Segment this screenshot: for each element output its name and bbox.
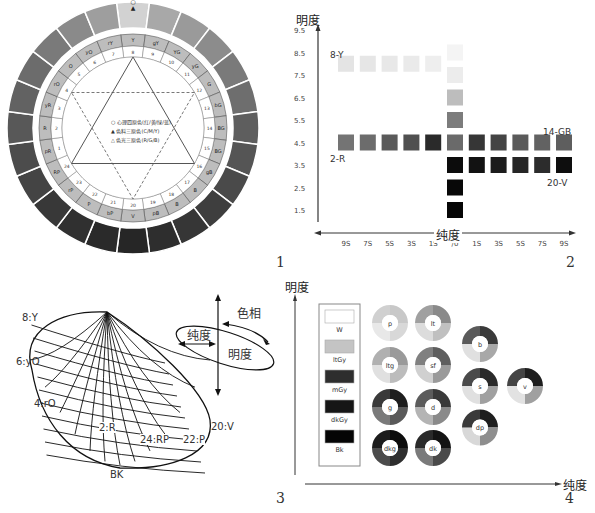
y-tick-label: 3.5 <box>294 162 305 170</box>
y-tick-label: 2.5 <box>294 185 305 193</box>
hue-number-label: 19 <box>150 200 156 205</box>
tone-donut-dp: dp <box>462 410 498 446</box>
neutral-legend-label: mGy <box>332 386 347 394</box>
hue-label-2-R: 2:R <box>99 422 116 433</box>
tone-donut-dk: dk <box>415 430 451 466</box>
hue-code-label: YG <box>173 49 181 55</box>
outer-hue-segment <box>7 112 34 145</box>
outer-hue-segment <box>232 112 259 145</box>
neutral-legend-label: W <box>336 326 343 334</box>
hue-code-label: RP <box>54 169 61 175</box>
hue-section-chart: 明度 9.58.57.56.55.54.53.52.51.59S7S5S3S1S… <box>290 0 595 270</box>
hue-code-label: P <box>87 201 90 207</box>
hue-swatch <box>403 56 419 72</box>
neutral-swatch <box>447 67 463 83</box>
hue-label-20-V: 20:V <box>211 421 234 432</box>
hue-code-label: bG <box>214 102 221 108</box>
y-tick-label: 1.5 <box>294 207 305 215</box>
hue-swatch <box>360 56 376 72</box>
tone-donut-ltg: ltg <box>372 347 408 383</box>
tone-label: b <box>478 341 482 349</box>
tone-label: dk <box>429 445 437 453</box>
hue-swatch <box>512 135 528 151</box>
y-axis-title: 明度 <box>296 11 320 28</box>
x-tick-label: 1S <box>472 240 481 248</box>
hue-number-label: 2 <box>55 126 58 131</box>
tone-map-svg: WltGymGydkGyBkpltltgsfgddkgdkbsvdp <box>285 270 595 513</box>
x-tick-label: 5S <box>385 240 394 248</box>
hue-swatch <box>403 135 419 151</box>
x-tick-label: 7S <box>538 240 547 248</box>
primary-marker: ▲ <box>131 4 136 11</box>
hue-code-label: V <box>131 213 135 219</box>
axis-legend <box>172 298 279 392</box>
hue-number-label: 9 <box>151 52 154 57</box>
hue-code-label: pB <box>152 210 159 217</box>
hue-label-4-rO: 4:rO <box>34 398 56 409</box>
hue-code-label: yG <box>192 63 199 70</box>
hue-label-22-P: 22:P <box>183 434 205 445</box>
tone-donut-v: v <box>507 368 543 404</box>
hue-number-label: 20 <box>130 203 136 208</box>
tone-donut-d: d <box>415 389 451 425</box>
hue-swatch <box>556 157 572 173</box>
hue-number-label: 5 <box>77 72 80 77</box>
hue-code-label: pR <box>45 148 52 155</box>
hue-swatch <box>360 135 376 151</box>
figure-number-3: 3 <box>276 490 285 506</box>
hue-code-label: gB <box>206 169 213 176</box>
axis-legend-hue: 色相 <box>237 304 261 321</box>
neutral-legend-label: Bk <box>335 446 343 454</box>
hue-arrow-left <box>222 321 229 327</box>
hue-number-label: 6 <box>93 60 96 65</box>
axis-legend-chroma: 纯度 <box>187 326 211 343</box>
x-tick-label: 3S <box>494 240 503 248</box>
x-tick-label: 9S <box>560 240 569 248</box>
tone-donut-s: s <box>462 368 498 404</box>
hue-code-label: B <box>194 187 198 193</box>
neutral-legend-swatch <box>325 310 354 323</box>
hue-number-label: 18 <box>168 192 174 197</box>
tone-y-axis-title: 明度 <box>285 278 309 295</box>
hue-number-label: 1 <box>58 146 61 151</box>
hue-number-label: 14 <box>207 126 213 131</box>
hue-number-label: 8 <box>132 50 135 55</box>
tone-map-figure: 明度 纯度 WltGymGydkGyBkpltltgsfgddkgdkbsvdp <box>285 270 595 513</box>
hue-number-label: 16 <box>196 164 202 169</box>
value-arrow-down <box>215 389 221 396</box>
hue-swatch <box>491 135 507 151</box>
hue-code-label: R <box>43 125 47 131</box>
hue-number-label: 10 <box>168 60 174 65</box>
hue-swatch <box>534 157 550 173</box>
hue-number-label: 17 <box>184 180 190 185</box>
color-solid-figure: 8:Y 6:yO 4:rO 2:R 24:RP 22:P 20:V BK 色相 … <box>0 270 285 513</box>
hue-swatch <box>338 135 354 151</box>
annotation-8-Y: 8-Y <box>330 50 343 60</box>
tone-donut-dkg: dkg <box>372 430 408 466</box>
tone-label: p <box>388 320 392 328</box>
hue-number-label: 11 <box>184 72 190 77</box>
neutral-legend-swatch <box>325 400 354 413</box>
hue-swatch <box>491 157 507 173</box>
hue-code-label: BG <box>217 125 224 131</box>
figure-number-4: 4 <box>565 490 574 506</box>
neutral-swatch <box>447 112 463 128</box>
hue-label-8-Y: 8:Y <box>22 312 38 323</box>
tone-x-arrow <box>555 482 562 486</box>
tone-donut-p: p <box>372 305 408 341</box>
tone-donut-sf: sf <box>415 347 451 383</box>
hue-swatch <box>382 135 398 151</box>
tone-label: lt <box>431 320 436 328</box>
annotation-20-V: 20-V <box>547 178 567 188</box>
tone-label: d <box>431 404 435 412</box>
hue-number-label: 21 <box>110 200 116 205</box>
x-tick-label: 3S <box>407 240 416 248</box>
neutral-legend-swatch <box>325 340 354 353</box>
hue-swatch <box>469 135 485 151</box>
hue-swatch <box>425 56 441 72</box>
hue-number-label: 7 <box>112 52 115 57</box>
axis-legend-value: 明度 <box>228 345 252 362</box>
x-tick-label: 9S <box>342 240 351 248</box>
hue-label-24-RP: 24:RP <box>140 434 169 445</box>
hue-swatch <box>382 56 398 72</box>
